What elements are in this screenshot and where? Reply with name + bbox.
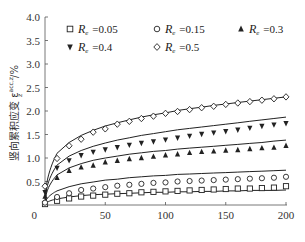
square-marker — [199, 187, 204, 192]
diamond-marker — [247, 98, 253, 104]
chart: 00.51.01.52.02.53.03.54.050100150200 Re … — [0, 0, 305, 242]
y-tick-label: 1.5 — [26, 129, 40, 141]
square-marker — [271, 185, 276, 190]
legend-label: Re =0.5 — [164, 40, 200, 55]
triangle-down-marker — [175, 136, 180, 141]
square-marker — [223, 186, 228, 191]
triangle-down-marker — [163, 137, 168, 142]
legend-label: Re =0.3 — [248, 22, 284, 37]
triangle-down-marker — [187, 134, 192, 139]
diamond-marker — [271, 96, 277, 102]
triangle-down-marker — [247, 126, 252, 131]
square-marker — [139, 190, 144, 195]
circle-marker — [235, 177, 240, 182]
legend-label: Re =0.15 — [164, 22, 205, 37]
legend-label: Re =0.05 — [77, 22, 118, 37]
triangle-down-marker — [151, 139, 156, 144]
legend-item: Re =0.05 — [67, 22, 118, 37]
diamond-marker — [283, 94, 289, 100]
triangle-down-marker — [139, 141, 144, 146]
circle-marker — [283, 174, 288, 179]
legend-item: Re =0.5 — [154, 40, 200, 55]
square-marker — [187, 188, 192, 193]
circle-marker — [42, 200, 47, 205]
diamond-marker — [54, 155, 60, 161]
triangle-up-marker — [151, 153, 156, 158]
legend-label: Re =0.4 — [77, 40, 113, 55]
triangle-up-marker — [271, 144, 276, 149]
square-marker — [79, 194, 84, 199]
triangle-down-marker — [67, 45, 73, 51]
triangle-up-marker — [127, 156, 132, 161]
diamond-marker — [211, 103, 217, 109]
circle-marker — [139, 181, 144, 186]
circle-marker — [103, 185, 108, 190]
diamond-marker — [223, 101, 229, 107]
circle-marker — [91, 186, 96, 191]
diamond-marker — [175, 108, 181, 114]
circle-marker — [271, 175, 276, 180]
triangle-up-marker — [139, 155, 144, 160]
triangle-up-marker — [223, 147, 228, 152]
y-axis-label: 竖向累积应变 εacc,zz/% — [7, 65, 23, 161]
square-marker — [247, 186, 252, 191]
triangle-down-marker — [223, 129, 228, 134]
triangle-up-marker — [163, 152, 168, 157]
diamond-marker — [154, 44, 160, 51]
legend-item: Re =0.3 — [238, 22, 283, 37]
diamond-marker — [66, 143, 72, 149]
square-marker — [103, 192, 108, 197]
diamond-marker — [187, 106, 193, 112]
triangle-up-marker — [79, 164, 84, 169]
y-tick-label: 2.0 — [26, 105, 40, 117]
triangle-up-marker — [199, 149, 204, 154]
square-marker — [115, 191, 120, 196]
square-marker — [127, 191, 132, 196]
legend-item: Re =0.15 — [154, 22, 205, 37]
triangle-down-marker — [259, 124, 264, 129]
circle-marker — [259, 176, 264, 181]
triangle-down-marker — [115, 145, 120, 150]
square-marker — [283, 184, 288, 189]
triangle-down-marker — [283, 121, 288, 126]
circle-marker — [223, 177, 228, 182]
square-marker — [163, 189, 168, 194]
diamond-marker — [235, 100, 241, 106]
legend: Re =0.05Re =0.15Re =0.3Re =0.4Re =0.5 — [67, 22, 283, 55]
circle-marker — [115, 183, 120, 188]
triangle-down-marker — [271, 122, 276, 127]
triangle-up-marker — [175, 151, 180, 156]
triangle-up-marker — [91, 162, 96, 167]
triangle-down-marker — [79, 153, 84, 158]
triangle-up-marker — [187, 150, 192, 155]
circle-marker — [247, 176, 252, 181]
y-tick-label: 2.5 — [26, 82, 40, 94]
square-marker — [67, 196, 72, 201]
triangle-down-marker — [199, 132, 204, 137]
square-marker — [259, 185, 264, 190]
diamond-marker — [199, 105, 205, 111]
circle-marker — [54, 194, 59, 199]
circle-marker — [127, 182, 132, 187]
legend-item: Re =0.4 — [67, 40, 112, 55]
square-marker — [175, 188, 180, 193]
triangle-up-marker — [67, 167, 72, 172]
circle-marker — [163, 180, 168, 185]
triangle-up-marker — [103, 159, 108, 164]
triangle-down-marker — [235, 128, 240, 133]
x-tick-label: 200 — [278, 209, 295, 221]
y-tick-label: 0 — [32, 209, 38, 221]
y-tick-label: 3.0 — [26, 58, 40, 70]
x-tick-label: 150 — [218, 209, 235, 221]
y-tick-label: 3.5 — [26, 35, 40, 47]
triangle-up-marker — [247, 146, 252, 151]
triangle-down-marker — [103, 147, 108, 152]
circle-marker — [151, 180, 156, 185]
triangle-down-marker — [127, 143, 132, 148]
circle-marker — [199, 178, 204, 183]
triangle-up-marker — [283, 143, 288, 148]
square-marker — [67, 26, 73, 32]
circle-marker — [187, 178, 192, 183]
triangle-down-marker — [91, 150, 96, 155]
square-marker — [91, 193, 96, 198]
